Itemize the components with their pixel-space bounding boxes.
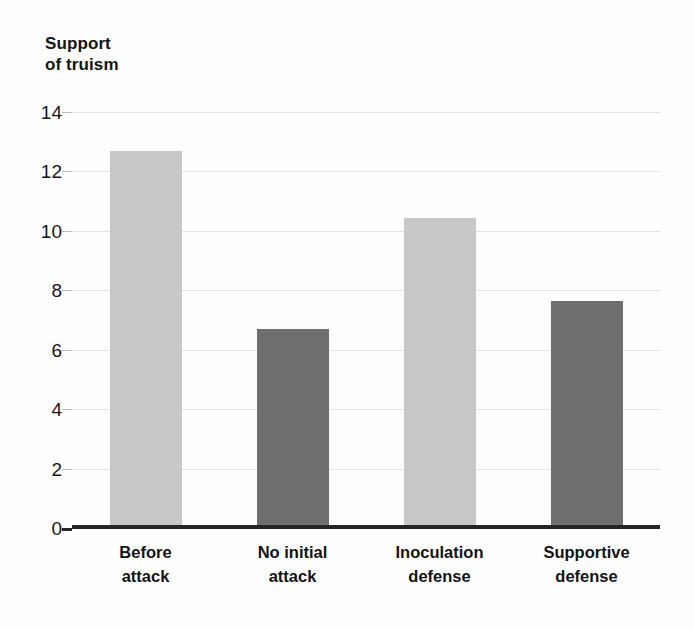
bars-layer (72, 112, 660, 528)
bar (404, 218, 476, 529)
bar-chart-figure: Support of truism 02468101214 Before att… (0, 0, 694, 629)
y-axis-tick-labels: 02468101214 (0, 112, 62, 528)
y-axis-tick-mark (62, 112, 72, 113)
category-label: Supportive defense (513, 540, 660, 588)
y-axis-tick-label: 14 (41, 103, 62, 122)
y-axis-tick-mark (62, 528, 72, 531)
x-axis-line (72, 525, 660, 529)
bar (257, 329, 329, 528)
y-axis-tick-label: 6 (51, 340, 62, 359)
x-axis-category-labels: Before attackNo initial attackInoculatio… (72, 540, 660, 600)
y-axis-tick-label: 12 (41, 162, 62, 181)
category-label: Before attack (72, 540, 219, 588)
y-axis-title: Support of truism (45, 33, 119, 75)
y-axis-tick-mark (62, 171, 72, 172)
category-label: Inoculation defense (366, 540, 513, 588)
y-axis-tick-label: 4 (51, 400, 62, 419)
y-axis-tick-label: 8 (51, 281, 62, 300)
y-axis-tick-label: 10 (41, 221, 62, 240)
category-label: No initial attack (219, 540, 366, 588)
y-axis-tick-mark (62, 290, 72, 291)
y-axis-tick-label: 2 (51, 459, 62, 478)
plot-area (72, 112, 660, 528)
y-axis-tick-mark (62, 350, 72, 351)
bar (551, 301, 623, 528)
bar (110, 151, 182, 528)
y-axis-tick-mark (62, 469, 72, 470)
y-axis-tick-mark (62, 409, 72, 410)
y-axis-tick-label: 0 (51, 519, 62, 538)
y-axis-tick-mark (62, 231, 72, 232)
